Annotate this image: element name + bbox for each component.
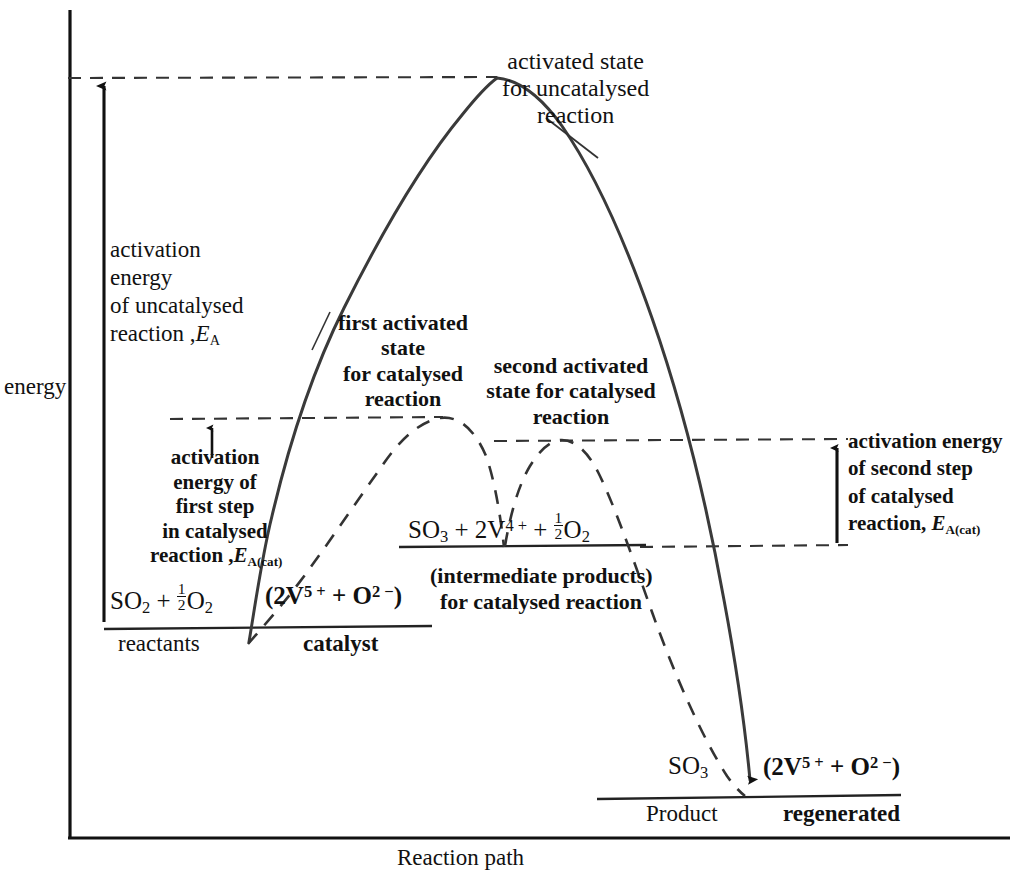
caption-line: for catalysed reaction bbox=[430, 589, 653, 615]
formula-part: SO bbox=[110, 587, 142, 614]
annotation-line: first step bbox=[150, 494, 280, 519]
annotation-line: state bbox=[330, 335, 476, 360]
annotation-line: reaction bbox=[478, 404, 664, 429]
symbol-E-subscript: A(cat) bbox=[248, 554, 283, 569]
symbol-E: E bbox=[932, 511, 946, 535]
formula-intermediate-products: SO3 + 2V4 + + 12O2 bbox=[408, 510, 590, 544]
formula-superscript: 2 − bbox=[870, 753, 892, 772]
level-intermediate-extension bbox=[640, 545, 848, 547]
formula-part: O bbox=[187, 587, 205, 614]
symbol-EAcat: EA(cat) bbox=[234, 543, 283, 567]
annotation-line-prefix: reaction, bbox=[848, 511, 932, 535]
annotation-activation-energy-second-step: activation energy of second step of cata… bbox=[848, 428, 1003, 537]
formula-part: SO bbox=[408, 516, 440, 543]
annotation-line: of catalysed bbox=[848, 483, 1003, 510]
formula-catalyst-regenerated: (2V5 + + O2 −) bbox=[763, 753, 900, 781]
y-axis-label: energy bbox=[4, 374, 66, 400]
annotation-line: energy of bbox=[150, 470, 280, 495]
annotation-line: in catalysed bbox=[150, 519, 280, 544]
caption-intermediate-products: (intermediate products) for catalysed re… bbox=[430, 563, 653, 615]
fraction-one-half: 12 bbox=[554, 510, 564, 540]
annotation-activation-energy-uncatalysed: activation energy of uncatalysed reactio… bbox=[110, 236, 243, 348]
formula-product: SO3 bbox=[668, 752, 708, 780]
curve-uncatalysed bbox=[249, 78, 750, 780]
formula-subscript: 3 bbox=[700, 763, 708, 782]
formula-superscript: 5 + bbox=[304, 582, 326, 601]
symbol-E-subscript: A bbox=[210, 332, 220, 348]
formula-part: + 2V bbox=[448, 516, 505, 543]
annotation-line: activation bbox=[150, 445, 280, 470]
symbol-EAcat: EA(cat) bbox=[932, 511, 981, 535]
formula-part: + bbox=[150, 587, 177, 614]
annotation-line: for catalysed bbox=[330, 361, 476, 386]
annotation-line: reaction bbox=[502, 102, 649, 129]
annotation-line: of uncatalysed bbox=[110, 292, 243, 320]
annotation-line: first activated bbox=[330, 310, 476, 335]
caption-regenerated: regenerated bbox=[783, 801, 900, 827]
formula-part: O bbox=[564, 516, 582, 543]
x-axis-label: Reaction path bbox=[397, 845, 524, 870]
fraction-one-half: 12 bbox=[177, 581, 187, 611]
level-second-activated-state bbox=[494, 439, 848, 441]
annotation-line-prefix: reaction , bbox=[150, 543, 234, 567]
level-uncatalysed-peak bbox=[68, 77, 497, 78]
annotation-line: reaction bbox=[330, 386, 476, 411]
symbol-E: E bbox=[234, 543, 248, 567]
annotation-line-prefix: reaction , bbox=[110, 321, 196, 346]
energy-profile-diagram: energy Reaction path activated state for… bbox=[0, 0, 1023, 870]
annotation-line: state for catalysed bbox=[478, 378, 664, 403]
caption-reactants: reactants bbox=[118, 631, 200, 657]
formula-part: SO bbox=[668, 752, 700, 779]
symbol-E: E bbox=[196, 321, 210, 346]
formula-subscript: 2 bbox=[142, 598, 150, 617]
formula-superscript: 4 + bbox=[505, 516, 527, 535]
annotation-line: activation bbox=[110, 236, 243, 264]
caption-catalyst: catalyst bbox=[303, 631, 378, 657]
baseline-product bbox=[597, 795, 901, 799]
annotation-line-with-symbol: reaction ,EA bbox=[110, 320, 243, 348]
fraction-numerator: 1 bbox=[177, 581, 187, 596]
annotation-first-activated-state: first activated state for catalysed reac… bbox=[330, 310, 476, 411]
symbol-E-subscript: A(cat) bbox=[946, 522, 981, 537]
formula-part: + bbox=[527, 516, 554, 543]
annotation-line: of second step bbox=[848, 455, 1003, 482]
annotation-second-activated-state: second activated state for catalysed rea… bbox=[478, 353, 664, 429]
baseline-reactants bbox=[104, 626, 432, 629]
formula-catalyst: (2V5 + + O2 −) bbox=[265, 582, 402, 610]
fraction-denominator: 2 bbox=[554, 525, 564, 541]
annotation-activated-state-uncatalysed: activated state for uncatalysed reaction bbox=[502, 48, 649, 129]
annotation-line: energy bbox=[110, 264, 243, 292]
annotation-line: second activated bbox=[478, 353, 664, 378]
formula-subscript: 2 bbox=[582, 527, 590, 546]
fraction-numerator: 1 bbox=[554, 510, 564, 525]
formula-subscript: 2 bbox=[205, 598, 213, 617]
annotation-activation-energy-first-step: activation energy of first step in catal… bbox=[150, 445, 280, 568]
formula-reactants: SO2 + 12O2 bbox=[110, 581, 213, 615]
annotation-line: activated state bbox=[502, 48, 649, 75]
symbol-EA: EA bbox=[196, 321, 220, 346]
caption-line: (intermediate products) bbox=[430, 563, 653, 589]
formula-superscript: 2 − bbox=[372, 582, 394, 601]
annotation-line: activation energy bbox=[848, 428, 1003, 455]
caption-product: Product bbox=[646, 801, 718, 827]
level-first-activated-state bbox=[170, 417, 443, 419]
fraction-denominator: 2 bbox=[177, 596, 187, 612]
baseline-intermediate bbox=[399, 545, 646, 547]
annotation-line-with-symbol: reaction ,EA(cat) bbox=[150, 543, 280, 568]
annotation-line-with-symbol: reaction, EA(cat) bbox=[848, 510, 1003, 537]
annotation-line: for uncatalysed bbox=[502, 75, 649, 102]
formula-superscript: 5 + bbox=[802, 753, 824, 772]
formula-subscript: 3 bbox=[440, 527, 448, 546]
